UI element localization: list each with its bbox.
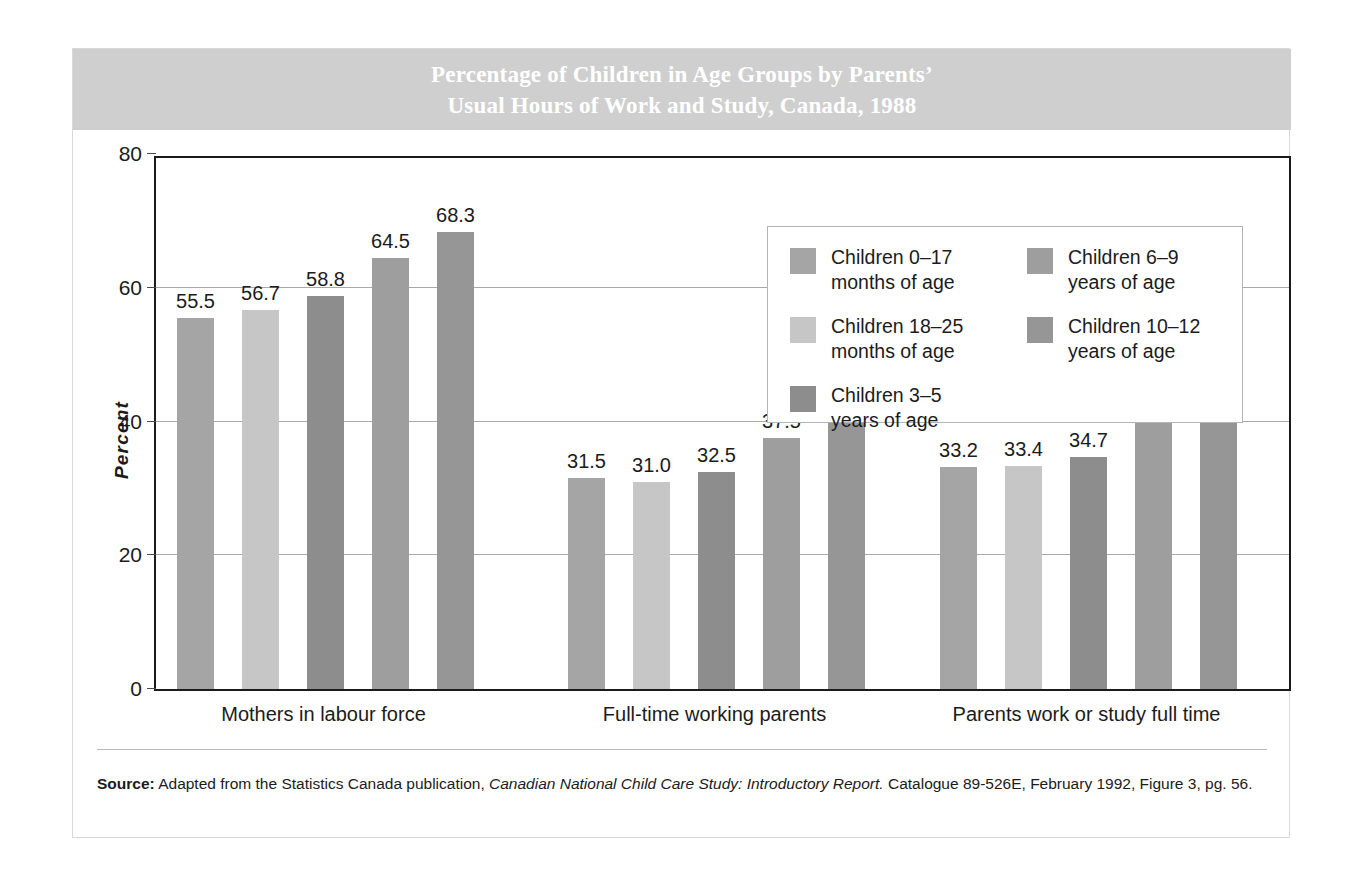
source-note: Source: Adapted from the Statistics Cana… [97,771,1267,797]
legend-item: Children 18–25 months of age [790,314,1005,364]
bar: 40.1 [1135,421,1172,689]
source-divider [97,749,1267,750]
bar: 64.5 [372,258,409,689]
bar: 44.1 [1200,394,1237,689]
bar: 37.5 [763,438,800,689]
bar-value-label: 31.5 [567,450,606,473]
legend-label: Children 3–5 years of age [831,383,942,433]
y-tick-label-80: 80 [119,142,142,166]
y-tick-40 [147,421,156,422]
bar: 68.3 [437,232,474,689]
legend-columns: Children 0–17 months of ageChildren 18–2… [768,245,1242,422]
bar: 55.5 [177,318,214,689]
legend-column-left: Children 0–17 months of ageChildren 18–2… [768,245,1005,422]
y-tick-80 [147,153,156,154]
bar: 33.4 [1005,466,1042,689]
bar-value-label: 55.5 [176,290,215,313]
legend-item: Children 10–12 years of age [1027,314,1242,364]
y-tick-label-60: 60 [119,276,142,300]
bar: 33.2 [940,467,977,689]
x-axis-group-label: Full-time working parents [603,703,826,726]
source-label: Source: [97,775,155,792]
bar: 32.5 [698,472,735,689]
bar: 58.8 [307,296,344,689]
y-tick-label-0: 0 [130,677,142,701]
y-tick-60 [147,287,156,288]
legend-swatch [790,248,816,274]
source-publication-title: Canadian National Child Care Study: Intr… [489,775,884,792]
y-tick-0 [147,688,156,689]
legend-label: Children 10–12 years of age [1068,314,1200,364]
y-tick-20 [147,554,156,555]
bar-value-label: 58.8 [306,268,345,291]
legend-label: Children 6–9 years of age [1068,245,1179,295]
y-tick-label-40: 40 [119,410,142,434]
legend-label: Children 18–25 months of age [831,314,963,364]
legend: Children 0–17 months of ageChildren 18–2… [767,226,1243,423]
bar-value-label: 64.5 [371,230,410,253]
plot-wrapper: Percent 020406080 55.556.758.864.568.331… [73,130,1291,750]
bar-value-label: 32.5 [697,444,736,467]
source-text-2: Catalogue 89-526E, February 1992, Figure… [884,775,1253,792]
bar-value-label: 34.7 [1069,429,1108,452]
legend-swatch [1027,317,1053,343]
bar: 31.5 [568,478,605,689]
x-axis-group-label: Parents work or study full time [953,703,1221,726]
source-text-1: Adapted from the Statistics Canada publi… [155,775,489,792]
title-banner: Percentage of Children in Age Groups by … [73,49,1291,130]
bar: 34.7 [1070,457,1107,689]
figure-title: Percentage of Children in Age Groups by … [431,59,933,121]
x-axis-group-label: Mothers in labour force [221,703,426,726]
legend-swatch [790,317,816,343]
bar-value-label: 31.0 [632,454,671,477]
bar-value-label: 33.4 [1004,438,1043,461]
y-tick-label-20: 20 [119,543,142,567]
legend-swatch [790,386,816,412]
legend-swatch [1027,248,1053,274]
legend-label: Children 0–17 months of age [831,245,955,295]
legend-column-right: Children 6–9 years of ageChildren 10–12 … [1005,245,1242,422]
legend-item: Children 6–9 years of age [1027,245,1242,295]
legend-item: Children 0–17 months of age [790,245,1005,295]
figure-container: Percentage of Children in Age Groups by … [72,48,1290,838]
bar: 56.7 [242,310,279,689]
bar-value-label: 33.2 [939,439,978,462]
bar: 41.9 [828,409,865,689]
bar: 31.0 [633,482,670,689]
legend-item: Children 3–5 years of age [790,383,1005,433]
bar-value-label: 56.7 [241,282,280,305]
bar-value-label: 68.3 [436,204,475,227]
